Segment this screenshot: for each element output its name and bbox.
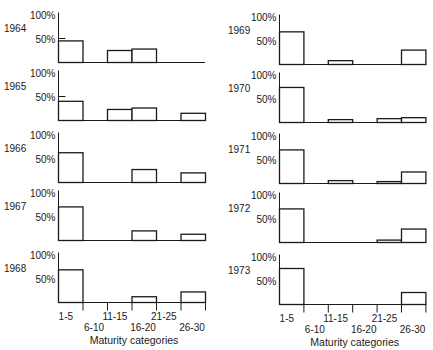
y-tick-100: 100% (251, 12, 277, 23)
bar-21-25 (377, 182, 401, 184)
y-tick-100: 100% (30, 10, 56, 21)
bar-1-5 (59, 101, 84, 120)
panel-year-label: 1965 (4, 81, 27, 92)
panel-1966: 1966100%50% (4, 130, 206, 183)
y-tick-50: 50% (256, 214, 276, 225)
x-tick-label: 11-15 (102, 311, 127, 322)
bar-26-30 (402, 118, 426, 123)
panel-1967: 1967100%50% (4, 188, 206, 241)
panel-year-label: 1968 (4, 263, 27, 274)
bar-26-30 (181, 173, 206, 183)
bar-11-15 (328, 181, 352, 184)
panel-year-label: 1966 (4, 143, 27, 154)
panel-year-label: 1973 (228, 265, 251, 276)
y-tick-50: 50% (256, 155, 276, 166)
x-tick-label: 11-15 (323, 313, 348, 324)
panel-year-label: 1971 (228, 144, 251, 155)
x-tick-label: 6-10 (84, 322, 104, 333)
panel-1971: 1971100%50% (228, 131, 426, 184)
panel-1970: 1970100%50% (228, 70, 426, 123)
bar-11-15 (328, 120, 352, 123)
y-tick-100: 100% (30, 130, 56, 141)
bar-1-5 (280, 209, 304, 243)
panel-year-label: 1972 (228, 203, 251, 214)
y-tick-100: 100% (30, 188, 56, 199)
y-tick-50: 50% (35, 34, 55, 45)
y-tick-100: 100% (251, 131, 277, 142)
bar-26-30 (181, 234, 206, 240)
bar-1-5 (59, 207, 84, 241)
bar-1-5 (59, 270, 84, 303)
y-tick-100: 100% (30, 250, 56, 261)
x-axis-title: Maturity categories (90, 334, 179, 346)
y-tick-50: 50% (35, 92, 55, 103)
bar-1-5 (280, 150, 304, 184)
y-tick-50: 50% (256, 94, 276, 105)
bar-1-5 (59, 153, 84, 183)
panel-year-label: 1970 (228, 83, 251, 94)
y-tick-100: 100% (30, 68, 56, 79)
y-tick-50: 50% (256, 36, 276, 47)
x-tick-label: 6-10 (305, 324, 325, 335)
bar-26-30 (181, 292, 206, 303)
maturity-histogram-figure: 1964100%50%1965100%50%1966100%50%1967100… (0, 0, 433, 350)
x-tick-label: 21-25 (372, 313, 398, 324)
bar-1-5 (280, 87, 304, 122)
bar-16-20 (132, 108, 157, 120)
y-tick-100: 100% (251, 70, 277, 81)
panel-1972: 1972100%50% (228, 190, 426, 243)
y-tick-50: 50% (35, 154, 55, 165)
bar-21-25 (377, 240, 401, 242)
panel-year-label: 1967 (4, 201, 27, 212)
y-tick-50: 50% (256, 276, 276, 287)
x-tick-label: 26-30 (179, 322, 205, 333)
bar-1-5 (280, 269, 304, 305)
x-axis-title: Maturity categories (310, 336, 399, 348)
bar-21-25 (377, 119, 401, 123)
bar-26-30 (402, 50, 426, 64)
x-tick-label: 16-20 (351, 324, 377, 335)
y-tick-50: 50% (35, 212, 55, 223)
bar-11-15 (108, 109, 133, 120)
x-tick-label: 21-25 (151, 311, 177, 322)
x-tick-label: 26-30 (400, 324, 426, 335)
panel-1973: 1973100%50%1-56-1011-1516-2021-2526-30Ma… (228, 252, 426, 348)
bar-1-5 (59, 41, 84, 63)
panel-year-label: 1969 (228, 25, 251, 36)
bar-16-20 (132, 170, 157, 183)
panel-1964: 1964100%50% (4, 10, 205, 63)
bar-26-30 (402, 172, 426, 184)
x-tick-label: 1-5 (59, 311, 74, 322)
bar-11-15 (328, 61, 352, 65)
bar-16-20 (132, 297, 157, 303)
y-tick-50: 50% (35, 274, 55, 285)
y-tick-100: 100% (251, 252, 277, 263)
panel-year-label: 1964 (4, 23, 27, 34)
bar-16-20 (132, 231, 157, 241)
y-tick-100: 100% (251, 190, 277, 201)
bar-11-15 (108, 51, 133, 63)
x-tick-label: 1-5 (280, 313, 295, 324)
bar-16-20 (132, 49, 157, 62)
x-tick-label: 16-20 (130, 322, 156, 333)
panel-1968: 1968100%50%1-56-1011-1516-2021-2526-30Ma… (4, 250, 206, 346)
bar-26-30 (402, 229, 426, 242)
panel-1969: 1969100%50% (228, 12, 426, 65)
bar-1-5 (280, 32, 304, 65)
bar-26-30 (402, 293, 426, 305)
chart-canvas: 1964100%50%1965100%50%1966100%50%1967100… (0, 0, 433, 350)
panel-1965: 1965100%50% (4, 68, 206, 121)
bar-26-30 (181, 113, 206, 120)
